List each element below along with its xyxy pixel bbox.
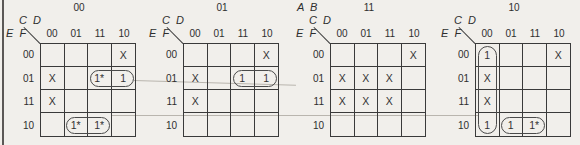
col-header: 11 xyxy=(523,28,547,39)
kmap-cell: X xyxy=(331,67,355,90)
row-header: 00 xyxy=(155,43,177,67)
col-header: 11 xyxy=(88,28,112,39)
group-oval xyxy=(501,117,545,134)
col-header: 01 xyxy=(64,28,88,39)
row-header: 11 xyxy=(155,90,177,114)
kmap-cell-value: X xyxy=(120,49,127,61)
row-header: 10 xyxy=(447,114,469,138)
kmap-cell: X xyxy=(41,90,65,113)
col-header: 01 xyxy=(499,28,523,39)
row-header: 11 xyxy=(302,90,324,114)
kmap-cell xyxy=(378,44,402,67)
row-header: 11 xyxy=(12,90,34,114)
col-header: 01 xyxy=(354,28,378,39)
kmap-cell-value: X xyxy=(339,95,346,107)
kmap-cell: X xyxy=(355,67,379,90)
kmap-cell: X xyxy=(402,44,426,67)
kmap-cell xyxy=(88,44,112,67)
kmap-cell-value: X xyxy=(362,95,369,107)
plane-value: 00 xyxy=(64,2,94,13)
kmap-cell xyxy=(500,90,524,113)
kmap-cell-value: X xyxy=(386,72,393,84)
kmap-cell-value: X xyxy=(410,49,417,61)
kmap-cell xyxy=(255,113,279,136)
kmap-cell-value: X xyxy=(386,95,393,107)
group-oval xyxy=(233,70,277,87)
plane-value: 11 xyxy=(354,2,384,13)
kmap-cell xyxy=(523,90,547,113)
kmap-cell-value: X xyxy=(49,95,56,107)
kmap-cell xyxy=(355,44,379,67)
kmap-cell: X xyxy=(184,90,208,113)
row-header: 01 xyxy=(447,67,469,91)
kmap-cell xyxy=(523,44,547,67)
col-header: 11 xyxy=(231,28,255,39)
kmap-cell xyxy=(402,90,426,113)
col-var-label: C D xyxy=(454,14,477,26)
kmap-cell xyxy=(208,113,232,136)
kmap-cell xyxy=(500,44,524,67)
kmap-cell-value: X xyxy=(49,72,56,84)
kmap-cell xyxy=(523,67,547,90)
col-var-label: C D xyxy=(162,14,185,26)
kmap-cell xyxy=(231,90,255,113)
kmap-cell xyxy=(402,113,426,136)
kmap-cell xyxy=(208,67,232,90)
kmap-cell xyxy=(112,113,136,136)
kmap-cell xyxy=(208,44,232,67)
kmap-cell xyxy=(184,113,208,136)
col-header: 00 xyxy=(330,28,354,39)
col-header: 10 xyxy=(547,28,571,39)
kmap-cell: X xyxy=(112,44,136,67)
kmap-cell-value: X xyxy=(192,72,199,84)
kmap-cell xyxy=(231,44,255,67)
kmap-cell xyxy=(231,113,255,136)
row-header: 00 xyxy=(302,43,324,67)
group-oval xyxy=(66,117,110,134)
col-header: 01 xyxy=(207,28,231,39)
col-header: 00 xyxy=(475,28,499,39)
kmap-cell xyxy=(41,44,65,67)
kmap-cell: X xyxy=(378,90,402,113)
row-header: 01 xyxy=(155,67,177,91)
kmap-cell xyxy=(331,44,355,67)
kmap-cell: X xyxy=(355,90,379,113)
kmap-grid: XX11X xyxy=(183,43,279,137)
kmap-cell xyxy=(65,90,89,113)
kmap-cell-value: X xyxy=(362,72,369,84)
group-oval xyxy=(90,70,134,87)
col-header: 00 xyxy=(183,28,207,39)
kmap-cell: X xyxy=(41,67,65,90)
kmap-cell: X xyxy=(378,67,402,90)
row-header: 11 xyxy=(447,90,469,114)
page-edge-line xyxy=(2,0,4,145)
row-header: 10 xyxy=(302,114,324,138)
row-header: 00 xyxy=(12,43,34,67)
kmap-cell xyxy=(65,44,89,67)
col-header: 10 xyxy=(255,28,279,39)
col-header: 11 xyxy=(378,28,402,39)
kmap-cell-value: X xyxy=(192,95,199,107)
row-header: 01 xyxy=(302,67,324,91)
kmap-cell: X xyxy=(184,67,208,90)
col-header: 00 xyxy=(40,28,64,39)
plane-var-label: A B xyxy=(297,1,319,13)
kmap-cell xyxy=(547,113,571,136)
row-header: 00 xyxy=(447,43,469,67)
kmap-cell: X xyxy=(547,44,571,67)
group-oval xyxy=(478,46,497,135)
kmap-cell xyxy=(331,113,355,136)
kmap-cell-value: X xyxy=(339,72,346,84)
kmap-cell xyxy=(500,67,524,90)
kmap-cell xyxy=(255,90,279,113)
kmap-cell xyxy=(547,90,571,113)
kmap-cell xyxy=(547,67,571,90)
kmap-cell: X xyxy=(331,90,355,113)
kmap-cell xyxy=(378,113,402,136)
kmap-cell-value: X xyxy=(263,49,270,61)
plane-value: 01 xyxy=(207,2,237,13)
col-header: 10 xyxy=(402,28,426,39)
kmap-cell xyxy=(41,113,65,136)
kmap-cell xyxy=(88,90,112,113)
row-header: 01 xyxy=(12,67,34,91)
